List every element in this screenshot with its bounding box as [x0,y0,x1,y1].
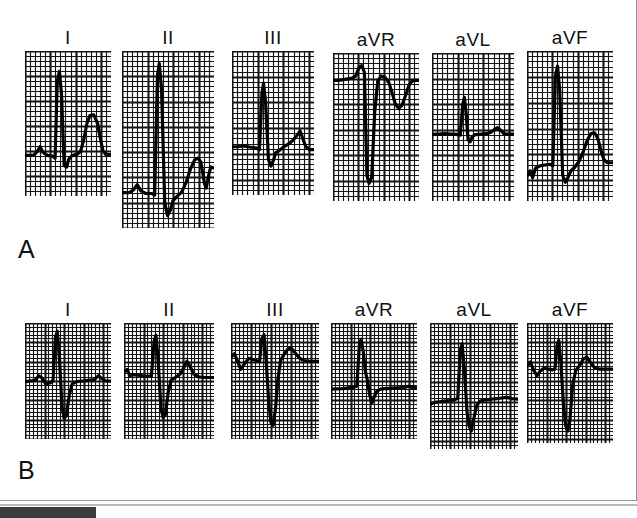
ecg-lead-a-ii: II [122,25,214,228]
ecg-lead-b-i: I [25,297,111,439]
ecg-lead-b-ii: II [124,297,214,439]
ecg-strip-svg [231,323,319,439]
ecg-trace-box [333,53,419,201]
ecg-trace-box [232,51,314,195]
ecg-waveform-trace [527,66,613,182]
panel-letter-b: B [18,458,35,483]
ecg-grid [25,323,111,439]
ecg-trace-box [432,53,514,201]
ecg-strip-svg [333,53,419,201]
ecg-lead-b-avf: aVF [527,297,613,443]
ecg-lead-a-avr: aVR [333,27,419,201]
ecg-grid [122,51,214,228]
lead-label: III [231,297,319,323]
ecg-lead-a-iii: III [232,25,314,195]
ecg-trace-box [331,323,417,439]
lead-label: III [232,25,314,51]
ecg-strip-svg [432,53,514,201]
ecg-trace-box [231,323,319,439]
ecg-strip-svg [124,323,214,439]
lead-label: I [25,297,111,323]
ecg-trace-box [124,323,214,439]
ecg-trace-box [122,51,214,228]
lead-label: II [122,25,214,51]
ecg-grid [124,323,214,439]
ecg-lead-a-avf: aVF [527,25,613,201]
lead-label: aVR [333,27,419,53]
ecg-trace-box [25,51,111,196]
ecg-grid [232,51,314,195]
ecg-lead-b-avr: aVR [331,297,417,439]
ecg-strip-svg [331,323,417,439]
ecg-lead-b-iii: III [231,297,319,439]
ecg-waveform-trace [25,71,111,167]
ecg-lead-a-avl: aVL [432,27,514,201]
page-corner-bar [0,507,96,518]
lead-label: aVF [527,25,613,51]
page-edge-bottom-secondary [0,504,637,506]
ecg-lead-a-i: I [25,25,111,196]
lead-label: aVR [331,297,417,323]
ecg-strip-svg [527,323,613,443]
page-edge-bottom [0,500,637,501]
ecg-strip-svg [122,51,214,228]
ecg-trace-box [430,323,518,449]
lead-label: aVF [527,297,613,323]
ecg-trace-box [25,323,111,439]
lead-label: II [124,297,214,323]
lead-label: aVL [430,297,518,323]
ecg-strip-svg [430,323,518,449]
ecg-figure: A B IIIIIIaVRaVLaVFIIIIIIaVRaVLaVF [0,0,637,518]
ecg-strip-svg [25,51,111,196]
ecg-trace-box [527,51,613,201]
panel-letter-a: A [18,237,35,262]
ecg-lead-b-avl: aVL [430,297,518,449]
ecg-grid [432,53,514,201]
ecg-strip-svg [25,323,111,439]
ecg-strip-svg [527,51,613,201]
ecg-grid [331,323,417,439]
ecg-strip-svg [232,51,314,195]
ecg-trace-box [527,323,613,443]
lead-label: I [25,25,111,51]
ecg-grid [527,51,613,201]
ecg-grid [333,53,419,201]
ecg-waveform-trace [124,335,214,417]
lead-label: aVL [432,27,514,53]
ecg-grid [430,323,518,449]
